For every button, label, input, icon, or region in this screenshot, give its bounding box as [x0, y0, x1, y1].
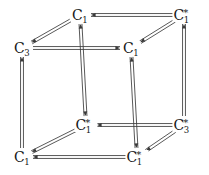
commutative-cube-diagram: C3C1C1C*1C1C*1C*1C*3	[0, 0, 209, 175]
node-subscript: 1	[86, 125, 91, 135]
node-back-top-right: C1	[122, 41, 140, 55]
node-front-bottom-left: C*1	[74, 118, 97, 132]
edge-right-back-vertical	[130, 57, 139, 148]
node-back-bottom-right: C*1	[125, 150, 148, 164]
node-subscript: 1	[184, 15, 189, 25]
edge-left-back-vertical	[20, 57, 24, 148]
edge-bottom-front-horizontal	[33, 155, 126, 159]
edge-right-front-vertical	[182, 24, 186, 116]
edge-top-front-horizontal	[91, 13, 173, 17]
edge-diag-top-right	[140, 20, 176, 44]
edge-diag-bottom-left	[31, 129, 77, 154]
node-back-bottom-left: C1	[13, 150, 31, 164]
node-subscript: 3	[24, 48, 29, 58]
node-front-top-right: C*1	[172, 8, 195, 22]
edge-bottom-back-horizontal	[97, 123, 173, 127]
node-back-top-left: C3	[13, 41, 31, 55]
node-subscript: 1	[24, 157, 29, 167]
node-front-bottom-right: C*3	[172, 118, 195, 132]
edge-top-back-horizontal	[33, 46, 120, 50]
node-subscript: 3	[184, 125, 189, 135]
node-subscript: 1	[82, 15, 87, 25]
edge-layer	[0, 0, 209, 175]
node-subscript: 1	[137, 157, 142, 167]
node-front-top-left: C1	[71, 8, 89, 22]
edge-diag-bottom-right	[145, 130, 175, 152]
edge-left-front-vertical	[79, 24, 88, 116]
edge-diag-top-left	[31, 19, 71, 44]
node-subscript: 1	[133, 48, 138, 58]
